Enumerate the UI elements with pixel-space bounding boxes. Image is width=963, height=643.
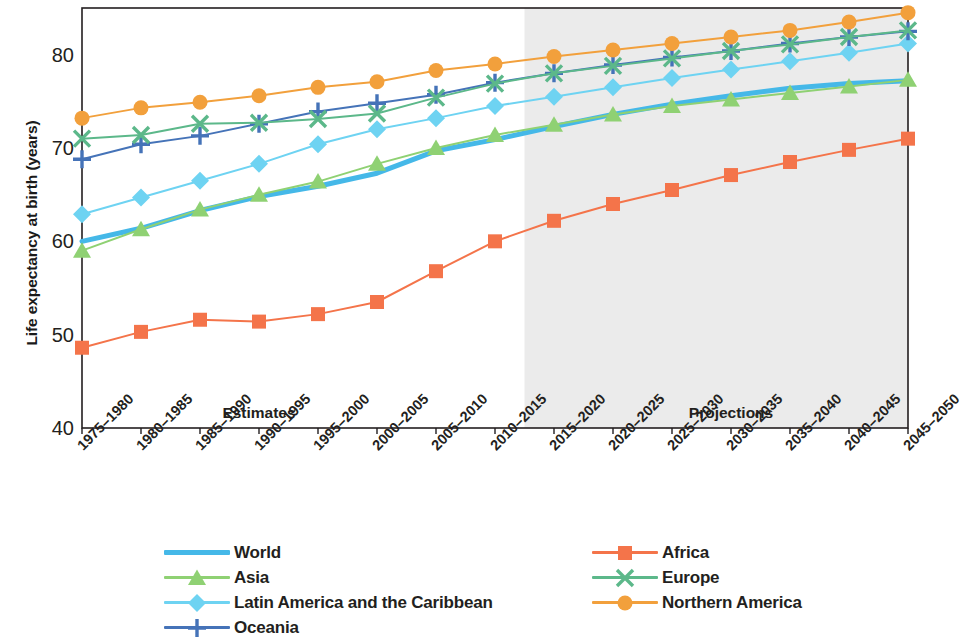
data-point-marker: [132, 135, 150, 153]
data-point-marker: [73, 242, 91, 257]
legend-label: Europe: [662, 568, 719, 588]
data-point-marker: [547, 214, 561, 228]
legend-label: Africa: [662, 543, 709, 563]
data-point-marker: [370, 295, 384, 309]
data-point-marker: [250, 155, 268, 173]
legend-item-oceania[interactable]: Oceania: [160, 615, 493, 640]
legend-marker-icon: [160, 592, 234, 614]
legend-swatch: [588, 542, 662, 564]
data-point-marker: [427, 86, 445, 104]
legend-marker-icon: [160, 617, 234, 639]
legend-item-latin-america-and-the-caribbean[interactable]: Latin America and the Caribbean: [160, 590, 493, 615]
data-point-marker: [842, 15, 857, 30]
chart-legend: WorldAsiaLatin America and the Caribbean…: [0, 540, 919, 643]
legend-swatch: [160, 567, 234, 589]
legend-swatch: [160, 542, 234, 564]
legend-swatch: [588, 567, 662, 589]
data-point-marker: [309, 173, 327, 189]
legend-marker-icon: [588, 592, 662, 614]
data-point-marker: [606, 197, 620, 211]
data-point-marker: [193, 313, 207, 327]
legend-label: Northern America: [662, 593, 802, 613]
data-point-marker: [309, 135, 327, 153]
data-point-marker: [252, 315, 266, 329]
data-point-marker: [665, 36, 680, 51]
data-point-marker: [73, 150, 91, 168]
data-point-marker: [488, 57, 503, 72]
data-point-marker: [132, 188, 150, 206]
data-point-marker: [73, 205, 91, 223]
legend-label: World: [234, 543, 281, 563]
data-point-marker: [547, 49, 562, 64]
legend-label: Latin America and the Caribbean: [234, 593, 493, 613]
data-point-marker: [842, 143, 856, 157]
data-point-marker: [134, 325, 148, 339]
period-label: Projections: [689, 404, 773, 422]
data-point-marker: [488, 234, 502, 248]
data-point-marker: [368, 120, 386, 138]
legend-column: WorldAsiaLatin America and the Caribbean…: [160, 540, 493, 640]
period-label: Estimates: [222, 404, 295, 422]
legend-item-northern-america[interactable]: Northern America: [588, 590, 802, 615]
legend-line: [164, 550, 230, 555]
data-point-marker: [724, 168, 738, 182]
legend-item-africa[interactable]: Africa: [588, 540, 802, 565]
data-point-marker: [311, 307, 325, 321]
data-point-marker: [665, 183, 679, 197]
data-point-marker: [617, 570, 633, 586]
legend-swatch: [160, 592, 234, 614]
legend-marker-icon: [160, 567, 234, 589]
legend-item-europe[interactable]: Europe: [588, 565, 802, 590]
data-point-marker: [188, 619, 206, 637]
legend-column: AfricaEuropeNorthern America: [588, 540, 802, 615]
data-point-marker: [191, 172, 209, 190]
data-point-marker: [618, 595, 633, 610]
data-point-marker: [75, 111, 90, 126]
data-point-marker: [783, 23, 798, 38]
legend-swatch: [160, 617, 234, 639]
legend-swatch: [588, 592, 662, 614]
data-point-marker: [901, 132, 915, 146]
data-point-marker: [75, 341, 89, 355]
data-point-marker: [188, 569, 206, 585]
legend-label: Asia: [234, 568, 269, 588]
data-point-marker: [606, 43, 621, 58]
data-point-marker: [783, 155, 797, 169]
data-point-marker: [427, 109, 445, 127]
data-point-marker: [429, 63, 444, 78]
data-point-marker: [134, 100, 149, 115]
data-point-marker: [429, 264, 443, 278]
data-point-marker: [193, 95, 208, 110]
data-point-marker: [311, 80, 326, 95]
data-point-marker: [724, 29, 739, 44]
legend-marker-icon: [588, 567, 662, 589]
data-point-marker: [618, 546, 632, 560]
data-point-marker: [188, 594, 206, 612]
legend-marker-icon: [588, 542, 662, 564]
data-point-marker: [252, 88, 267, 103]
legend-item-world[interactable]: World: [160, 540, 493, 565]
data-point-marker: [370, 74, 385, 89]
legend-label: Oceania: [234, 618, 299, 638]
legend-item-asia[interactable]: Asia: [160, 565, 493, 590]
data-point-marker: [486, 97, 504, 115]
data-point-marker: [901, 5, 916, 20]
